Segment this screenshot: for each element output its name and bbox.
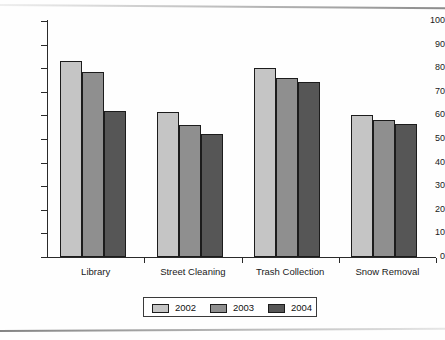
- y-axis-tick-mark: [41, 45, 47, 46]
- y-axis-tick-mark: [41, 163, 47, 164]
- y-axis-tick-label: 70: [409, 87, 445, 96]
- y-axis-tick-mark: [41, 210, 47, 211]
- bar-2003-street-cleaning: [179, 125, 201, 257]
- bar-2002-trash-collection: [254, 68, 276, 257]
- x-axis-label-snow-removal: Snow Removal: [339, 266, 436, 278]
- y-axis-tick-mark: [41, 139, 47, 140]
- bar-2004-snow-removal: [395, 124, 417, 257]
- y-axis-tick-mark: [41, 68, 47, 69]
- y-axis-tick-mark: [41, 92, 47, 93]
- y-axis-tick-label: 90: [409, 40, 445, 49]
- legend-swatch-2003: [210, 304, 227, 313]
- bar-chart: 1009080706050403020100 LibraryStreet Cle…: [0, 0, 445, 340]
- bar-2004-trash-collection: [298, 82, 320, 257]
- y-axis-tick-label: 80: [409, 63, 445, 72]
- y-axis-tick-mark: [41, 21, 47, 22]
- x-axis-label-library: Library: [47, 266, 144, 278]
- bar-2004-library: [104, 111, 126, 257]
- y-axis-tick-label: 100: [409, 16, 445, 25]
- x-axis-label-trash-collection: Trash Collection: [242, 266, 339, 278]
- x-axis-label-street-cleaning: Street Cleaning: [144, 266, 241, 278]
- legend-item-2002: 2002: [152, 302, 196, 314]
- legend-item-2004: 2004: [268, 302, 312, 314]
- x-axis-separator-tick: [144, 258, 145, 263]
- legend-label-2002: 2002: [175, 303, 196, 313]
- bar-2002-snow-removal: [351, 115, 373, 257]
- y-axis-tick-mark: [41, 186, 47, 187]
- x-axis-separator-tick: [339, 258, 340, 263]
- x-axis-separator-tick: [242, 258, 243, 263]
- legend-label-2004: 2004: [291, 303, 312, 313]
- bar-2003-snow-removal: [373, 120, 395, 257]
- y-axis-tick-mark: [41, 115, 47, 116]
- legend-swatch-2004: [268, 304, 285, 313]
- legend-swatch-2002: [152, 304, 169, 313]
- bar-2003-library: [82, 72, 104, 257]
- y-axis-tick-label: 60: [409, 110, 445, 119]
- legend-item-2003: 2003: [210, 302, 254, 314]
- legend-label-2003: 2003: [233, 303, 254, 313]
- bar-2004-street-cleaning: [201, 134, 223, 257]
- bar-2002-street-cleaning: [157, 112, 179, 257]
- y-axis-line: [47, 20, 48, 258]
- x-axis-end-tick: [436, 258, 437, 263]
- bar-2003-trash-collection: [276, 78, 298, 257]
- bar-2002-library: [60, 61, 82, 257]
- y-axis-tick-mark: [41, 257, 47, 258]
- y-axis-tick-mark: [41, 233, 47, 234]
- chart-legend: 200220032004: [143, 297, 317, 317]
